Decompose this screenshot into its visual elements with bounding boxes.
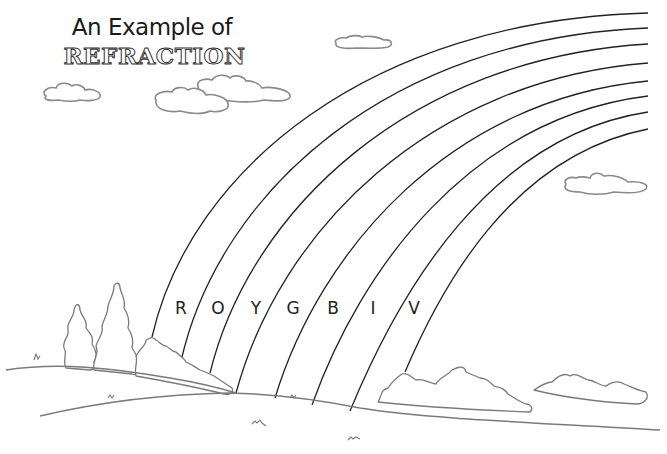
title-line-1: An Example of — [52, 14, 252, 40]
band-label-green: G — [286, 298, 299, 318]
tree-small — [64, 305, 97, 370]
cloud-left — [44, 83, 100, 101]
band-label-blue: B — [327, 298, 339, 318]
ground-ridge-front — [40, 393, 660, 430]
band-label-red: R — [175, 298, 187, 318]
rainbow-arc-7 — [350, 112, 648, 411]
title-line-2: REFRACTION — [52, 42, 257, 69]
bush-far-right — [534, 374, 647, 404]
refraction-illustration: An Example of REFRACTION R O Y G B I V — [0, 0, 667, 454]
grass-tuft — [108, 395, 114, 398]
band-label-indigo: I — [370, 298, 375, 318]
grass-tuft — [348, 437, 360, 440]
band-label-yellow: Y — [251, 298, 261, 318]
rainbow-arc-8 — [405, 129, 648, 372]
rainbow-arc-5 — [275, 81, 648, 398]
bush-right — [378, 367, 532, 412]
cloud-small-top — [335, 36, 391, 49]
band-label-orange: O — [211, 298, 224, 318]
tree-tall — [94, 283, 139, 374]
left-vegetation — [64, 283, 648, 412]
rainbow-arcs — [152, 13, 648, 411]
rainbow-arc-6 — [312, 96, 648, 405]
grass-tuft — [34, 354, 40, 360]
grass-tuft — [252, 420, 266, 426]
band-label-violet: V — [408, 298, 420, 318]
rainbow-arc-4 — [236, 63, 648, 393]
cloud-right — [565, 173, 647, 194]
